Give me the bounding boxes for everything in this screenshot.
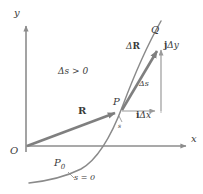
origin-label: O <box>10 146 18 156</box>
figure-canvas: y x O P Q P0 s s = 0 R ΔR Δs Δs > 0 iΔx … <box>0 0 203 194</box>
x-axis-label: x <box>191 134 197 144</box>
plane-curve <box>29 21 161 183</box>
point-label-p0-base: P <box>54 157 61 168</box>
point-label-p0-subscript: 0 <box>61 163 65 171</box>
increment-vector-label: ΔR <box>126 42 140 51</box>
delta-s-positive-label: Δs > 0 <box>58 67 88 76</box>
diagram-svg <box>0 0 203 194</box>
point-label-q: Q <box>151 25 159 35</box>
j-component-variable: y <box>174 40 179 50</box>
arclength-label-at-p: s <box>118 123 121 129</box>
y-axis-label: y <box>14 8 20 18</box>
delta-s-label: Δs <box>139 80 149 88</box>
position-vector-label: R <box>78 106 86 116</box>
arclength-zero-label: s = 0 <box>74 174 95 182</box>
i-component-variable: x <box>146 110 151 120</box>
position-vector-R <box>27 113 115 146</box>
point-label-p: P <box>113 97 120 107</box>
i-component-label: iΔx <box>136 111 151 120</box>
point-label-p0: P0 <box>54 158 65 171</box>
j-component-label: jΔy <box>164 41 179 50</box>
increment-vector-symbol: R <box>133 41 140 51</box>
